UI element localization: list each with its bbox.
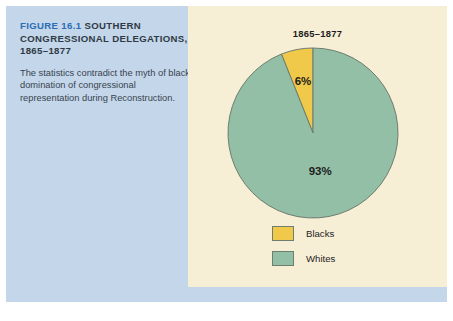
- pie-chart: 6%93%: [226, 46, 400, 220]
- legend-item-blacks: Blacks: [272, 224, 422, 243]
- chart-title: 1865–1877: [188, 28, 447, 39]
- legend-swatch-whites: [272, 251, 294, 266]
- page-title: FIGURE 16.1 SOUTHERN CONGRESSIONAL DELEG…: [20, 20, 190, 58]
- legend-swatch-blacks: [272, 226, 294, 241]
- pie-chart-svg: 6%93%: [226, 46, 400, 220]
- legend-label-whites: Whites: [306, 253, 335, 264]
- figure-caption: The statistics contradict the myth of bl…: [20, 67, 190, 105]
- pie-label-blacks: 6%: [295, 75, 312, 87]
- chart-legend: Blacks Whites: [272, 224, 422, 274]
- caption-column: FIGURE 16.1 SOUTHERN CONGRESSIONAL DELEG…: [20, 20, 190, 105]
- pie-slice-whites: [228, 48, 398, 218]
- legend-item-whites: Whites: [272, 249, 422, 268]
- legend-label-blacks: Blacks: [306, 228, 334, 239]
- pie-label-whites: 93%: [309, 165, 332, 177]
- pie-slices: [228, 48, 398, 218]
- figure-label: FIGURE 16.1: [20, 20, 81, 31]
- figure-panel: FIGURE 16.1 SOUTHERN CONGRESSIONAL DELEG…: [6, 6, 447, 302]
- chart-panel: 1865–1877 6%93% Blacks Whites: [188, 6, 447, 287]
